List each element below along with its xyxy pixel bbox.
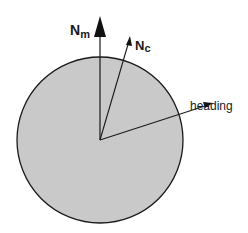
magnetic-north-label: Nm (70, 22, 90, 40)
compass-diagram: Nm Nc heading (0, 0, 248, 233)
compass-north-arrowhead-icon (126, 36, 132, 46)
magnetic-north-arrowhead-icon (94, 16, 106, 37)
compass-north-label: Nc (135, 38, 151, 54)
heading-label: heading (190, 99, 233, 113)
